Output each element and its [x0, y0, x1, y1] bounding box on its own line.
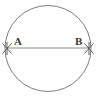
geometry-figure: A B — [0, 0, 96, 99]
figure-canvas: A B — [0, 0, 96, 99]
point-label-a: A — [14, 35, 22, 47]
point-label-b: B — [75, 35, 83, 47]
point-marker-b-icon — [85, 42, 94, 55]
main-circle — [5, 6, 91, 92]
point-marker-a-icon — [3, 42, 12, 55]
